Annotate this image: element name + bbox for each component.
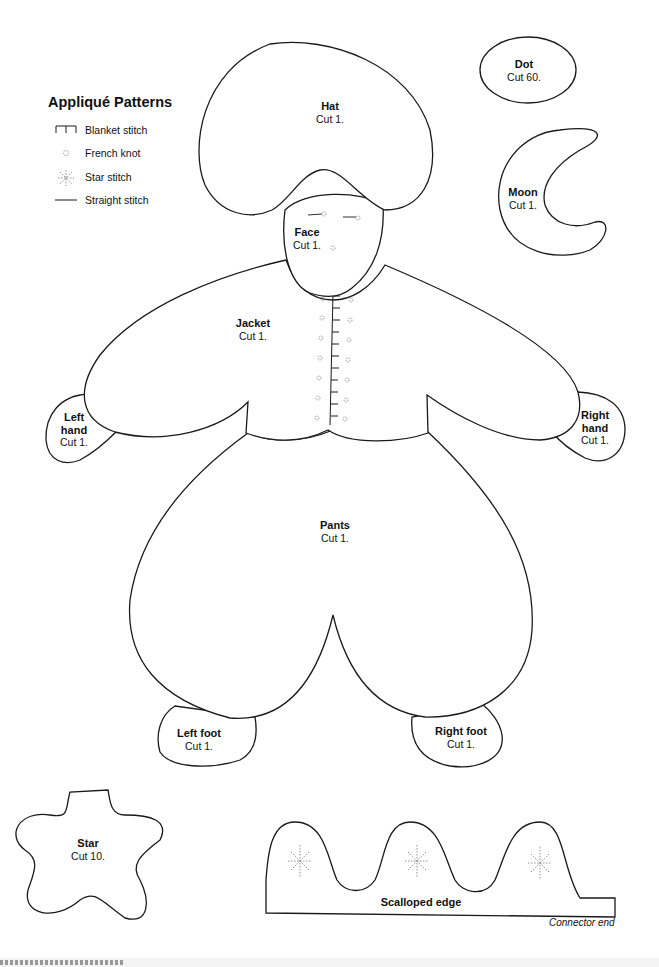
star-stitch-icon (58, 170, 74, 186)
legend-item-blanket: Blanket stitch (85, 124, 147, 136)
right-hand-label: RighthandCut 1. (581, 409, 609, 446)
french-knot-icon (64, 151, 69, 156)
hat-label: HatCut 1. (316, 100, 344, 125)
legend-item-star: Star stitch (85, 171, 132, 183)
cropped-footer-strip (0, 958, 659, 967)
moon-label: MoonCut 1. (508, 186, 537, 211)
pattern-sheet (0, 0, 659, 967)
right-foot-label: Right footCut 1. (435, 725, 487, 750)
pants-piece (130, 430, 533, 718)
legend-item-straight: Straight stitch (85, 194, 149, 206)
face-label: FaceCut 1. (293, 226, 321, 251)
pants-label: PantsCut 1. (320, 519, 350, 544)
jacket-label: JacketCut 1. (236, 317, 270, 342)
legend-item-french-knot: French knot (85, 147, 140, 159)
dot-label: DotCut 60. (507, 58, 541, 83)
scalloped-edge-label: Scalloped edge (381, 896, 462, 909)
left-foot-label: Left footCut 1. (177, 727, 221, 752)
connector-end-note: Connector end (549, 917, 615, 928)
hat-piece (199, 42, 433, 214)
blanket-stitch-icon (56, 126, 76, 133)
legend-title: Appliqué Patterns (48, 94, 172, 110)
star-label: StarCut 10. (71, 837, 105, 862)
left-hand-label: LefthandCut 1. (60, 411, 88, 448)
